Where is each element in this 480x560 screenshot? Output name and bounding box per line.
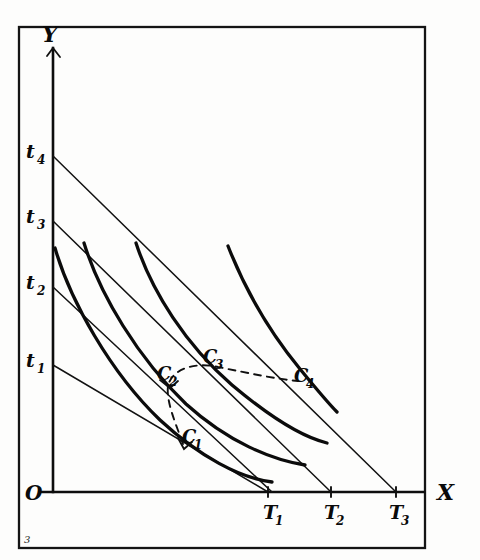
y-intercept-t4-sub: 4 <box>37 153 45 167</box>
origin-label: O <box>25 481 43 505</box>
indifference-curve-3 <box>136 243 327 443</box>
y-intercept-label-t2: t 2 <box>26 271 45 298</box>
figure-frame-border <box>19 27 425 548</box>
page-number: 3 <box>24 534 30 545</box>
y-intercept-t1-sub: 1 <box>37 362 45 376</box>
x-intercept-T2-sub: 2 <box>335 514 344 528</box>
x-axis-label: X <box>435 479 455 505</box>
x-intercept-T1-sub: 1 <box>275 514 283 528</box>
figure-root: Y X O t 4 t 3 t 2 t 1 T 1 T 2 T <box>0 0 480 560</box>
y-intercept-t3-sub: 3 <box>37 218 45 232</box>
equilibrium-C3-sub: 3 <box>215 358 223 372</box>
x-intercept-T3-sub: 3 <box>401 514 409 528</box>
y-intercept-t2-base: t <box>26 271 35 293</box>
y-intercept-t1-base: t <box>26 349 35 371</box>
x-intercept-label-T2: T 2 <box>324 501 344 528</box>
budget-line-t4-T3 <box>53 156 396 492</box>
y-axis-label: Y <box>42 21 60 47</box>
y-intercept-label-t1: t 1 <box>26 349 45 376</box>
y-intercept-t4-base: t <box>26 140 35 162</box>
indifference-curve-4 <box>228 246 337 412</box>
equilibrium-label-C4: C 4 <box>294 365 314 391</box>
y-intercept-label-t4: t 4 <box>26 140 45 167</box>
y-intercept-label-t3: t 3 <box>26 205 45 232</box>
equilibrium-C1-sub: 1 <box>194 438 202 452</box>
equilibrium-C2-sub: 2 <box>168 375 177 389</box>
indifference-curve-diagram: Y X O t 4 t 3 t 2 t 1 T 1 T 2 T <box>0 0 480 560</box>
x-intercept-label-T3: T 3 <box>389 501 409 528</box>
y-intercept-t3-base: t <box>26 205 35 227</box>
x-intercept-label-T1: T 1 <box>263 501 283 528</box>
equilibrium-C4-sub: 4 <box>306 377 314 391</box>
y-intercept-t2-sub: 2 <box>36 284 45 298</box>
